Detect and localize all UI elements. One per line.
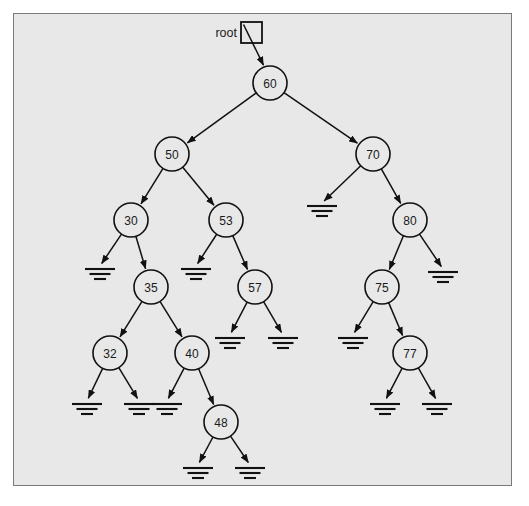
tree-node-70[interactable]: 70 [356, 137, 390, 171]
tree-edge-30-right [136, 236, 146, 269]
tree-edge-35-left [120, 301, 142, 336]
null-edge-57-right [264, 302, 282, 333]
node-value-label: 53 [219, 214, 233, 228]
null-edge-32-right [119, 368, 138, 399]
node-value-label: 57 [248, 281, 262, 295]
tree-node-60[interactable]: 60 [253, 66, 287, 100]
tree-edge-40-right [199, 369, 214, 405]
tree-node-32[interactable]: 32 [93, 336, 127, 370]
ground-symbol [422, 404, 452, 414]
ground-symbol [183, 468, 213, 478]
ground-symbol [338, 338, 368, 348]
root-pointer-layer: root [215, 22, 263, 65]
node-value-label: 32 [103, 347, 117, 361]
ground-symbol [268, 338, 298, 348]
ground-symbol [215, 338, 245, 348]
null-edge-57-left [231, 302, 247, 332]
ground-symbol [85, 269, 115, 279]
tree-edge-80-left [389, 236, 403, 270]
null-edge-48-left [199, 437, 213, 462]
node-value-label: 77 [403, 347, 417, 361]
tree-node-30[interactable]: 30 [114, 203, 148, 237]
ground-symbol [72, 404, 102, 414]
null-edge-32-left [88, 368, 102, 398]
node-value-label: 30 [124, 214, 138, 228]
tree-node-57[interactable]: 57 [238, 270, 272, 304]
node-value-label: 35 [144, 281, 158, 295]
tree-node-35[interactable]: 35 [134, 270, 168, 304]
node-value-label: 60 [263, 77, 277, 91]
ground-symbol [124, 404, 154, 414]
tree-edge-50-right [183, 167, 214, 205]
tree-canvas: 60507030538035577532407748 root [0, 0, 529, 506]
node-value-label: 50 [165, 148, 179, 162]
tree-node-77[interactable]: 77 [393, 336, 427, 370]
ground-symbol [235, 468, 265, 478]
null-edge-30-left [102, 234, 122, 263]
tree-node-40[interactable]: 40 [175, 336, 209, 370]
null-edge-77-left [386, 368, 402, 398]
tree-node-53[interactable]: 53 [209, 203, 243, 237]
null-edge-70-left [324, 166, 361, 201]
ground-symbol [152, 404, 182, 414]
null-edge-40-left [168, 368, 184, 398]
tree-edge-60-left [187, 93, 256, 143]
root-pointer-label: root [215, 26, 237, 40]
tree-node-50[interactable]: 50 [155, 137, 189, 171]
ground-symbol [181, 269, 211, 279]
null-edge-75-left [355, 302, 374, 333]
nodes-layer: 60507030538035577532407748 [93, 66, 427, 439]
tree-edge-53-right [233, 236, 248, 270]
tree-node-75[interactable]: 75 [365, 270, 399, 304]
tree-edge-35-right [160, 301, 182, 336]
tree-node-48[interactable]: 48 [204, 405, 238, 439]
ground-symbol [307, 206, 337, 216]
bst-figure: 60507030538035577532407748 root [0, 0, 529, 506]
tree-node-80[interactable]: 80 [393, 203, 427, 237]
node-value-label: 48 [214, 416, 228, 430]
tree-edge-50-left [141, 168, 163, 203]
node-value-label: 75 [375, 281, 389, 295]
node-value-label: 40 [185, 347, 199, 361]
null-edge-77-right [418, 368, 435, 399]
tree-edge-75-right [389, 303, 403, 336]
tree-edge-70-right [381, 169, 400, 204]
ground-symbol [370, 404, 400, 414]
node-value-label: 70 [366, 148, 380, 162]
null-edge-48-right [231, 436, 249, 462]
tree-edge-60-right [284, 93, 357, 144]
ground-symbol [428, 272, 458, 282]
node-value-label: 80 [403, 214, 417, 228]
null-edge-80-right [419, 234, 441, 266]
null-edge-53-left [198, 234, 217, 263]
